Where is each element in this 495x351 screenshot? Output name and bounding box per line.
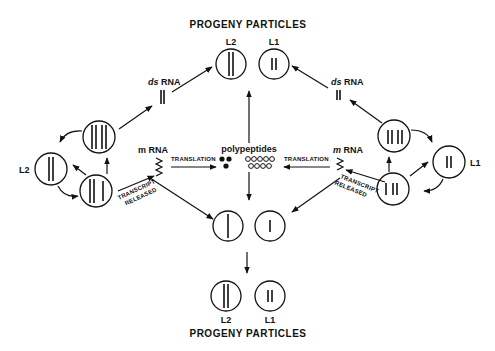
top-title: PROGENY PARTICLES <box>189 19 306 30</box>
arrow-left-a-to-c <box>58 186 78 196</box>
polypeptides-label: polypeptides <box>221 144 277 154</box>
left-translation-label: TRANSLATION <box>171 156 216 162</box>
bottom-progeny-l2: L2 <box>211 281 241 325</box>
left-cycle-label: L2 <box>19 165 30 175</box>
filled-polypeptides <box>219 156 231 168</box>
left-mrna-squiggle <box>156 158 162 176</box>
left-cycle-particle-c <box>80 175 112 207</box>
arrow-right-mrna-to-middle <box>292 178 340 212</box>
top-progeny-l2: L2 <box>216 37 246 79</box>
arrow-left-b-to-a <box>60 131 82 142</box>
arrow-right-c-to-b <box>410 162 428 176</box>
arrow-right-a-to-b <box>411 130 432 142</box>
right-cycle-label: L1 <box>470 158 481 168</box>
arrow-right-cycle-to-dsrna <box>350 100 382 123</box>
right-cycle-particle-c <box>377 173 409 205</box>
arrow-left-c-to-a <box>73 165 86 175</box>
middle-particle-l2 <box>213 211 243 241</box>
left-mrna-label: m RNA <box>138 145 169 155</box>
left-cycle-particle-a <box>35 153 67 185</box>
top-progeny-l2-label: L2 <box>226 37 237 47</box>
right-dsrna-label: ds RNA <box>331 77 364 87</box>
arrow-right-dsrna-to-progeny <box>292 66 328 88</box>
right-mrna-squiggle <box>337 158 343 170</box>
right-cycle-particle-b <box>433 146 465 178</box>
left-dsrna-label: ds RNA <box>148 77 181 87</box>
bottom-progeny-l1-label: L1 <box>265 315 276 325</box>
middle-particle-l1 <box>255 211 285 241</box>
left-dsrna: ds RNA <box>148 77 181 104</box>
left-cycle-particle-b <box>83 121 115 153</box>
arrow-left-mrna-to-middle <box>150 178 213 219</box>
top-progeny-l1-label: L1 <box>269 37 280 47</box>
right-translation-label: TRANSLATION <box>284 156 329 162</box>
bottom-progeny-l2-label: L2 <box>221 315 232 325</box>
right-dsrna: ds RNA <box>331 77 364 100</box>
arrow-right-b-to-c <box>424 179 443 191</box>
arrow-left-b-to-dsrna <box>119 106 152 129</box>
replication-diagram: PROGENY PARTICLES L2 L1 ds RNA ds RNA L2 <box>0 0 495 351</box>
right-transcript-released: TRANSCRIPT RELEASED <box>334 172 380 201</box>
bottom-title: PROGENY PARTICLES <box>189 328 306 339</box>
right-cycle-particle-a <box>378 120 410 152</box>
open-polypeptides <box>246 157 275 169</box>
bottom-progeny-l1: L1 <box>255 281 285 325</box>
right-mrna-label: m RNA <box>333 145 364 155</box>
top-progeny-l1: L1 <box>259 37 289 79</box>
